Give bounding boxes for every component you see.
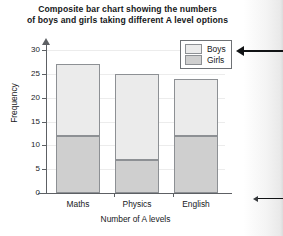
- y-axis-title: Frequency: [9, 67, 19, 139]
- y-tick-15: [42, 122, 46, 123]
- y-axis-arrowhead-icon: [42, 38, 50, 45]
- y-tick-label-5: 5: [10, 164, 40, 173]
- axis-pointer-arrowhead-icon: [253, 196, 258, 202]
- bar-maths[interactable]: [56, 64, 100, 193]
- x-label-maths: Maths: [48, 199, 108, 209]
- x-axis-line: [38, 193, 232, 194]
- bar-maths-girls-segment[interactable]: [56, 64, 100, 136]
- y-tick-label-30: 30: [10, 45, 40, 54]
- x-tick-2: [173, 193, 174, 197]
- bar-physics[interactable]: [115, 74, 159, 193]
- bar-english[interactable]: [174, 79, 218, 193]
- y-axis-line: [46, 44, 47, 193]
- y-tick-label-10: 10: [10, 140, 40, 149]
- bar-physics-girls-segment[interactable]: [115, 74, 159, 160]
- legend-pointer-arrowhead-icon: [236, 46, 244, 56]
- y-tick-20: [42, 98, 46, 99]
- x-axis-title: Number of A levels: [46, 214, 225, 224]
- boys-swatch-icon: [185, 44, 202, 54]
- axis-pointer-arrow-line: [258, 198, 283, 199]
- bar-maths-boys-segment[interactable]: [56, 136, 100, 193]
- y-tick-label-0: 0: [10, 188, 40, 197]
- x-tick-1: [114, 193, 115, 197]
- legend-item-boys[interactable]: Boys: [185, 43, 226, 54]
- bar-english-boys-segment[interactable]: [174, 136, 218, 193]
- chart-legend[interactable]: Boys Girls: [180, 40, 232, 69]
- y-tick-25: [42, 74, 46, 75]
- legend-pointer-arrow-line: [243, 50, 283, 52]
- x-label-physics: Physics: [107, 199, 167, 209]
- y-tick-30: [42, 50, 46, 51]
- chart-figure: Composite bar chart showing the numbers …: [0, 0, 283, 236]
- y-tick-5: [42, 169, 46, 170]
- y-tick-10: [42, 145, 46, 146]
- bar-english-girls-segment[interactable]: [174, 79, 218, 136]
- plot-area: [46, 50, 225, 193]
- girls-swatch-icon: [185, 55, 202, 65]
- legend-label-boys: Boys: [207, 44, 226, 54]
- bar-physics-boys-segment[interactable]: [115, 160, 159, 193]
- x-label-english: English: [166, 199, 226, 209]
- legend-label-girls: Girls: [207, 55, 224, 65]
- legend-item-girls[interactable]: Girls: [185, 54, 226, 65]
